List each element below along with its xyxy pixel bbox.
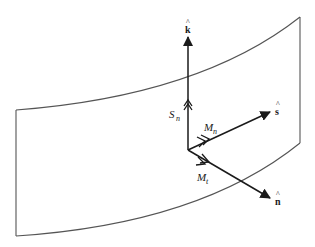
n-hat: ^ [276,190,280,199]
curved-surface [16,17,300,236]
n-hat-label: n ^ [275,190,281,207]
surface-bottom-edge [16,143,300,236]
k-hat: ^ [186,18,190,27]
s-hat: ^ [276,100,280,109]
diagram-canvas: k ^ s ^ n ^ S n M n M t [0,0,315,247]
mn-subscript: n [213,127,217,136]
mt-label: M t [196,171,209,186]
mt-subscript: t [206,177,209,186]
s-axis-arrow [188,112,270,150]
k-hat-label: k ^ [185,18,191,35]
surface-top-edge [16,17,300,110]
s-hat-label: s ^ [275,100,280,117]
sn-label: S n [169,108,180,123]
mn-label: M n [203,121,217,136]
sn-symbol: S [169,108,175,120]
sn-subscript: n [176,114,180,123]
